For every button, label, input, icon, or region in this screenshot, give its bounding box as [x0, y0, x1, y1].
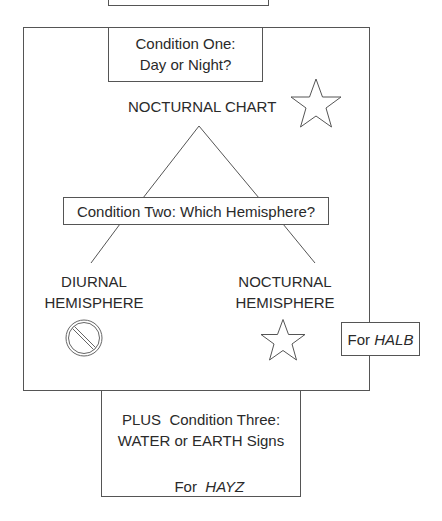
for-hayz-name: HAYZ [205, 478, 244, 495]
star-icon [259, 318, 307, 362]
nocturnal-hemisphere-label: NOCTURNAL HEMISPHERE [235, 271, 335, 313]
nocturnal-chart-label: NOCTURNAL CHART [128, 96, 270, 117]
for-hayz-prefix: For [174, 478, 205, 495]
condition-one-box: Condition One: Day or Night? [108, 27, 263, 82]
condition-one-line2: Day or Night? [109, 54, 262, 75]
nocturnal-line2: HEMISPHERE [235, 292, 335, 313]
star-icon [288, 77, 344, 129]
diurnal-hemisphere-label: DIURNAL HEMISPHERE [40, 271, 148, 313]
condition-two-box: Condition Two: Which Hemisphere? [63, 197, 329, 225]
diurnal-line1: DIURNAL [40, 271, 148, 292]
nocturnal-line1: NOCTURNAL [235, 271, 335, 292]
for-halb-prefix: For [348, 331, 375, 348]
for-halb-box: For HALB [341, 322, 420, 356]
for-halb-name: HALB [374, 331, 413, 348]
condition-three-line2: WATER or EARTH Signs [102, 430, 300, 451]
condition-three-line1: PLUS Condition Three: [102, 409, 300, 430]
condition-two-label: Condition Two: Which Hemisphere? [64, 201, 328, 222]
condition-one-line1: Condition One: [109, 33, 262, 54]
condition-three-box: PLUS Condition Three: WATER or EARTH Sig… [101, 390, 301, 497]
diurnal-line2: HEMISPHERE [40, 292, 148, 313]
prohibited-icon [63, 317, 105, 359]
